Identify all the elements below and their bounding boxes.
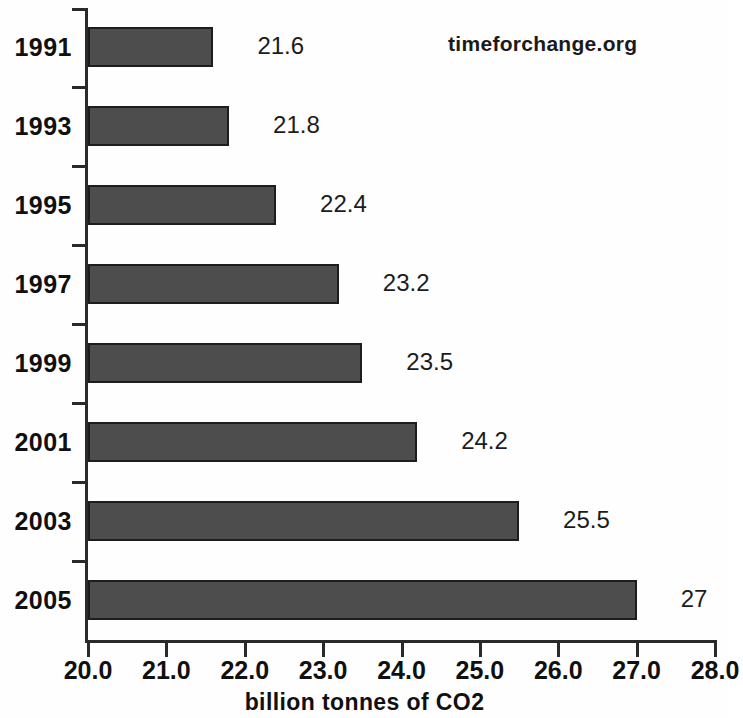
bar-row: 199923.5 — [0, 324, 729, 403]
bar-row: 199321.8 — [0, 87, 729, 166]
x-axis-tick-label: 28.0 — [675, 655, 743, 685]
x-axis-tick-label: 27.0 — [597, 655, 677, 685]
x-axis-title: billion tonnes of CO2 — [0, 688, 729, 716]
bar-row: 200124.2 — [0, 403, 729, 482]
bar-1991 — [88, 27, 213, 67]
x-axis-tick-label: 22.0 — [205, 655, 285, 685]
bar-value-label-1995: 22.4 — [320, 188, 367, 220]
category-label-1991: 1991 — [0, 32, 72, 62]
x-axis-tick-label: 20.0 — [48, 655, 128, 685]
bar-value-label-2003: 25.5 — [563, 504, 610, 536]
bar-1999 — [88, 343, 362, 383]
bar-value-label-1999: 23.5 — [406, 346, 453, 378]
category-label-1999: 1999 — [0, 348, 72, 378]
x-axis-tick-label: 24.0 — [362, 655, 442, 685]
bar-value-label-1997: 23.2 — [383, 267, 430, 299]
x-axis-tick-label: 25.0 — [440, 655, 520, 685]
watermark-label: timeforchange.org — [448, 31, 637, 57]
bar-value-label-1993: 21.8 — [273, 109, 320, 141]
category-label-2003: 2003 — [0, 506, 72, 536]
category-label-1993: 1993 — [0, 111, 72, 141]
bar-row: 200325.5 — [0, 482, 729, 561]
bar-value-label-1991: 21.6 — [257, 30, 304, 62]
bar-value-label-2005: 27 — [681, 583, 708, 615]
category-label-1995: 1995 — [0, 190, 72, 220]
bar-row: 199522.4 — [0, 166, 729, 245]
bar-2003 — [88, 501, 519, 541]
bar-2001 — [88, 422, 417, 462]
bar-1993 — [88, 106, 229, 146]
x-axis-tick-label: 21.0 — [126, 655, 206, 685]
x-axis-tick-label: 23.0 — [283, 655, 363, 685]
bar-2005 — [88, 580, 637, 620]
bar-1997 — [88, 264, 339, 304]
category-label-1997: 1997 — [0, 269, 72, 299]
x-axis-tick-label: 26.0 — [518, 655, 598, 685]
bar-row: 199723.2 — [0, 245, 729, 324]
bar-row: 200527 — [0, 561, 729, 640]
category-label-2001: 2001 — [0, 427, 72, 457]
bar-1995 — [88, 185, 276, 225]
category-label-2005: 2005 — [0, 585, 72, 615]
bar-value-label-2001: 24.2 — [461, 425, 508, 457]
